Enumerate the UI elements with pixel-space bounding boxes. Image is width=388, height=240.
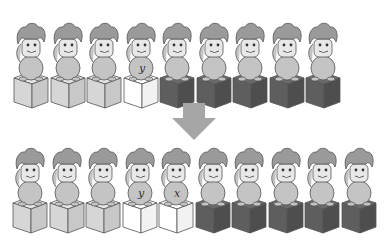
figure-icon bbox=[11, 137, 51, 237]
figure-icon bbox=[303, 137, 343, 237]
figure-icon bbox=[268, 12, 308, 112]
figure-icon bbox=[340, 137, 380, 237]
svg-text:y: y bbox=[137, 62, 145, 75]
figure-on-cube-6 bbox=[195, 12, 231, 112]
top-row: y bbox=[0, 12, 388, 112]
figure-icon bbox=[231, 12, 271, 112]
figure-on-cube-4: y bbox=[121, 137, 157, 237]
figure-on-cube-4: y bbox=[122, 12, 158, 112]
figure-on-cube-8 bbox=[267, 137, 303, 237]
bottom-row: y x bbox=[0, 137, 388, 237]
figure-icon: y bbox=[121, 137, 161, 237]
figure-on-cube-7 bbox=[230, 137, 266, 237]
figure-icon bbox=[48, 137, 88, 237]
figure-icon bbox=[304, 12, 344, 112]
svg-text:x: x bbox=[174, 187, 181, 200]
figure-on-cube-5 bbox=[158, 12, 194, 112]
figure-icon bbox=[84, 137, 124, 237]
figure-on-cube-6 bbox=[194, 137, 230, 237]
figure-on-cube-9 bbox=[304, 12, 340, 112]
figure-icon bbox=[85, 12, 125, 112]
figure-icon bbox=[194, 137, 234, 237]
figure-icon bbox=[230, 137, 270, 237]
figure-on-cube-10 bbox=[340, 137, 376, 237]
figure-on-cube-1 bbox=[11, 137, 47, 237]
figure-icon: y bbox=[122, 12, 162, 112]
figure-on-cube-8 bbox=[268, 12, 304, 112]
figure-icon bbox=[267, 137, 307, 237]
figure-on-cube-7 bbox=[231, 12, 267, 112]
figure-icon bbox=[12, 12, 52, 112]
figure-icon bbox=[195, 12, 235, 112]
figure-on-cube-5: x bbox=[157, 137, 193, 237]
svg-text:y: y bbox=[136, 187, 144, 200]
figure-on-cube-1 bbox=[12, 12, 48, 112]
figure-on-cube-2 bbox=[49, 12, 85, 112]
figure-on-cube-2 bbox=[48, 137, 84, 237]
figure-icon bbox=[49, 12, 89, 112]
figure-on-cube-9 bbox=[303, 137, 339, 237]
figure-icon bbox=[158, 12, 198, 112]
figure-on-cube-3 bbox=[84, 137, 120, 237]
figure-on-cube-3 bbox=[85, 12, 121, 112]
figure-icon: x bbox=[157, 137, 197, 237]
